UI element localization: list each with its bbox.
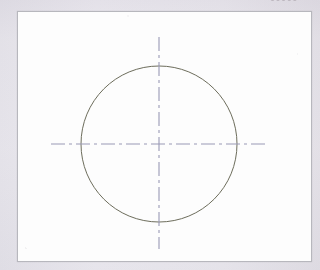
drawing-border xyxy=(17,11,312,262)
cutoff-header-text: ••••• xyxy=(270,0,298,5)
scanned-page: ••••• xyxy=(0,0,320,270)
technical-drawing-canvas xyxy=(18,12,313,263)
